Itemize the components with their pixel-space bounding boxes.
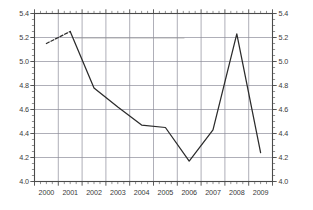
series-line-0 (70, 32, 260, 162)
x-axis-tick-label: 2007 (200, 188, 226, 197)
x-axis-tick-label: 2006 (176, 188, 202, 197)
y-axis-tick-label-left: 4.0 (4, 177, 29, 186)
x-axis-tick-label: 2003 (105, 188, 131, 197)
y-axis-tick-label-left: 5.0 (4, 57, 29, 66)
y-axis-tick-label-right: 4.2 (279, 153, 289, 162)
y-axis-tick-label-right: 4.8 (279, 81, 289, 90)
y-axis-tick-label-right: 4.6 (279, 105, 289, 114)
plot-canvas (0, 0, 313, 210)
x-axis-tick-label: 2009 (248, 188, 274, 197)
y-axis-tick-label-right: 5.4 (279, 9, 289, 18)
y-axis-tick-label-left: 4.8 (4, 81, 29, 90)
y-axis-tick-label-left: 5.2 (4, 33, 29, 42)
y-axis-tick-label-left: 4.2 (4, 153, 29, 162)
y-axis-tick-label-left: 4.6 (4, 105, 29, 114)
x-axis-tick-label: 2000 (33, 188, 59, 197)
x-axis-tick-label: 2002 (81, 188, 107, 197)
x-axis-tick-label: 2005 (152, 188, 178, 197)
x-axis-tick-label: 2004 (129, 188, 155, 197)
y-axis-tick-label-right: 5.2 (279, 33, 289, 42)
x-axis-tick-label: 2008 (224, 188, 250, 197)
y-axis-tick-label-left: 5.4 (4, 9, 29, 18)
x-axis-tick-label: 2001 (57, 188, 83, 197)
y-axis-tick-label-right: 4.0 (279, 177, 289, 186)
y-axis-tick-label-right: 5.0 (279, 57, 289, 66)
line-chart: 5.45.45.25.25.05.04.84.84.64.64.44.44.24… (0, 0, 313, 210)
y-axis-tick-label-right: 4.4 (279, 129, 289, 138)
y-axis-tick-label-left: 4.4 (4, 129, 29, 138)
